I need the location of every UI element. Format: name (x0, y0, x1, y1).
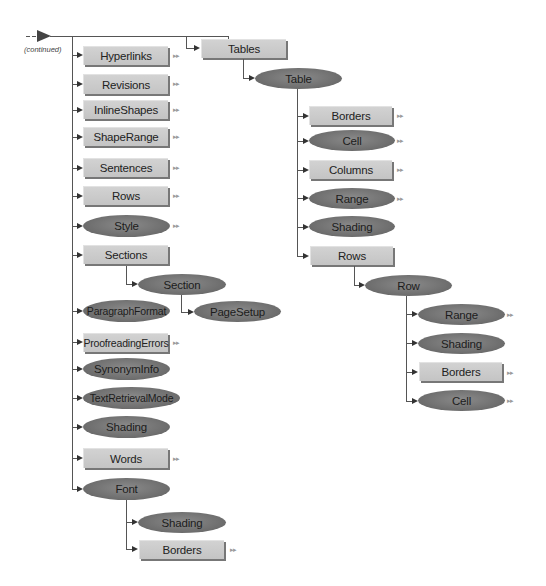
connector-line (126, 500, 127, 550)
node-font[interactable]: Font (83, 478, 170, 500)
node-shaperange[interactable]: ShapeRange (83, 127, 168, 146)
more-arrow-icon[interactable]: ▸▸ (173, 133, 179, 141)
node-font-borders[interactable]: Borders (139, 540, 224, 559)
node-pagesetup[interactable]: PageSetup (194, 301, 281, 322)
node-label: Hyperlinks (100, 50, 152, 62)
node-label: Cell (342, 135, 361, 147)
more-arrow-icon[interactable]: ▸▸ (173, 80, 179, 88)
node-label: Section (164, 279, 201, 291)
node-table-rows[interactable]: Rows (310, 246, 393, 265)
node-shading[interactable]: Shading (83, 416, 170, 438)
connector-line (297, 89, 298, 256)
node-row-borders[interactable]: Borders (419, 362, 502, 381)
more-arrow-icon[interactable]: ▸▸ (507, 397, 513, 405)
more-arrow-icon[interactable]: ▸▸ (173, 192, 179, 200)
node-inlineshapes[interactable]: InlineShapes (83, 100, 168, 119)
node-label: Rows (112, 190, 140, 202)
node-tables[interactable]: Tables (201, 39, 286, 58)
node-label: Table (285, 73, 312, 85)
node-style[interactable]: Style (83, 215, 170, 237)
node-synonyminfo[interactable]: SynonymInfo (83, 358, 170, 380)
node-label: Shading (441, 338, 482, 350)
node-label: Cell (452, 395, 471, 407)
node-hyperlinks[interactable]: Hyperlinks (83, 46, 168, 65)
node-label: InlineShapes (94, 104, 158, 116)
more-arrow-icon[interactable]: ▸▸ (173, 52, 179, 60)
node-label: Range (336, 193, 369, 205)
more-arrow-icon[interactable]: ▸▸ (230, 546, 236, 554)
node-label: Tables (228, 43, 260, 55)
node-label: SynonymInfo (94, 363, 159, 375)
node-label: Font (115, 483, 137, 495)
more-arrow-icon[interactable]: ▸▸ (507, 369, 513, 377)
node-label: ParagraphFormat (87, 305, 166, 317)
start-arrow-icon (37, 30, 51, 42)
node-label: Shading (332, 221, 373, 233)
node-words[interactable]: Words (83, 448, 168, 468)
arrow-icon (303, 253, 309, 259)
more-arrow-icon[interactable]: ▸▸ (173, 106, 179, 114)
node-proofreadingerrors[interactable]: ProofreadingErrors (83, 333, 168, 352)
node-table-cell[interactable]: Cell (309, 130, 395, 151)
node-label: Borders (442, 366, 481, 378)
node-label: Rows (338, 250, 366, 262)
more-arrow-icon[interactable]: ▸▸ (397, 137, 403, 145)
node-label: Row (397, 280, 419, 292)
node-row-shading[interactable]: Shading (418, 333, 505, 354)
continued-label: (continued) (24, 45, 62, 54)
node-label: Shading (106, 421, 147, 433)
arrow-icon (132, 546, 138, 552)
node-label: Shading (162, 517, 203, 529)
node-label: PageSetup (210, 306, 265, 318)
more-arrow-icon[interactable]: ▸▸ (507, 311, 513, 319)
node-table[interactable]: Table (255, 68, 342, 89)
arrow-icon (194, 45, 200, 51)
node-label: Sentences (100, 162, 153, 174)
node-label: Columns (329, 164, 373, 176)
node-section[interactable]: Section (138, 274, 226, 295)
node-label: Borders (332, 110, 371, 122)
more-arrow-icon[interactable]: ▸▸ (173, 339, 179, 347)
connector-line (354, 266, 355, 285)
more-arrow-icon[interactable]: ▸▸ (173, 455, 179, 463)
node-sections[interactable]: Sections (83, 245, 168, 264)
node-label: Sections (105, 249, 148, 261)
node-sentences[interactable]: Sentences (83, 158, 168, 177)
node-revisions[interactable]: Revisions (83, 74, 168, 94)
node-row-cell[interactable]: Cell (418, 390, 505, 411)
more-arrow-icon[interactable]: ▸▸ (173, 222, 179, 230)
object-model-diagram: (continued) Hyperlinks ▸▸ Revisions ▸▸ I… (0, 0, 546, 586)
node-row[interactable]: Row (365, 275, 452, 296)
node-label: Words (110, 453, 142, 465)
dash-segment (26, 36, 30, 37)
node-rows[interactable]: Rows (83, 186, 168, 205)
node-label: TextRetrievalMode (90, 392, 174, 404)
more-arrow-icon[interactable]: ▸▸ (397, 166, 403, 174)
node-row-range[interactable]: Range (418, 304, 505, 325)
connector-line (406, 296, 407, 401)
node-label: ProofreadingErrors (83, 337, 168, 349)
more-arrow-icon[interactable]: ▸▸ (397, 195, 403, 203)
node-label: Range (445, 309, 478, 321)
node-paragraphformat[interactable]: ParagraphFormat (83, 300, 170, 322)
node-table-range[interactable]: Range (309, 188, 395, 209)
arrow-icon (412, 369, 418, 375)
node-font-shading[interactable]: Shading (138, 512, 226, 533)
more-arrow-icon[interactable]: ▸▸ (173, 164, 179, 172)
dash-segment (32, 36, 36, 37)
node-label: Borders (163, 544, 202, 556)
node-label: ShapeRange (93, 131, 158, 143)
node-label: Style (114, 220, 139, 232)
connector-line (126, 266, 127, 285)
node-table-borders[interactable]: Borders (309, 106, 392, 125)
node-table-columns[interactable]: Columns (309, 160, 392, 179)
connector-line (181, 295, 182, 312)
node-textretrievalmode[interactable]: TextRetrievalMode (83, 387, 180, 409)
more-arrow-icon[interactable]: ▸▸ (397, 112, 403, 120)
connector-line (72, 36, 73, 489)
node-table-shading[interactable]: Shading (309, 216, 395, 237)
connector-line (50, 36, 229, 37)
node-label: Revisions (102, 79, 150, 91)
connector-line (243, 59, 244, 79)
